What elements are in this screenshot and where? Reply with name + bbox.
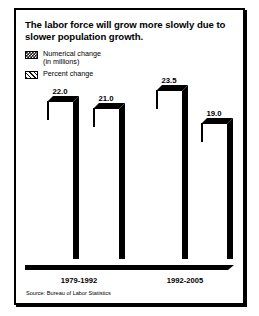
legend-label-percent-change: Percent change <box>43 70 93 78</box>
chart-inner: The labor force will grow more slowly du… <box>16 10 243 303</box>
bar-front-face <box>201 123 203 142</box>
axis-baseline-side <box>228 265 234 270</box>
bar-side-face <box>182 85 188 259</box>
bar-front-face <box>47 101 49 120</box>
legend-label-numerical-change: Numerical change (in millions) <box>43 50 101 66</box>
bar-1992-2005-numerical-change: 23.5 <box>156 91 182 265</box>
bar-side-face <box>227 118 233 259</box>
bar-value-label: 23.5 <box>161 76 176 85</box>
axis-baseline <box>25 265 228 270</box>
legend-item-numerical-change: Numerical change (in millions) <box>25 50 234 66</box>
bar-1992-2005-percent-change: 19.0 <box>201 124 227 265</box>
bar-value-label: 21.0 <box>98 94 113 103</box>
legend-item-percent-change: Percent change <box>25 70 234 79</box>
source-note: Source: Bureau of Labor Statistics <box>26 290 111 296</box>
bar-1979-1992-numerical-change: 22.0 <box>47 102 73 265</box>
bar-side-face <box>119 103 125 259</box>
bar-front-face <box>93 108 95 127</box>
chart-figure-frame: The labor force will grow more slowly du… <box>14 8 245 305</box>
bar-1979-1992-percent-change: 21.0 <box>93 109 119 265</box>
bar-value-label: 22.0 <box>52 87 67 96</box>
legend-swatch-checkerboard-icon <box>25 51 38 59</box>
x-axis-group-label-2: 1992-2005 <box>145 276 225 285</box>
chart-legend: Numerical change (in millions) Percent c… <box>25 50 234 78</box>
bar-front-face <box>156 90 158 109</box>
x-axis-group-label-1: 1979-1992 <box>39 276 119 285</box>
chart-plot-area: 22.0 21.0 23.5 19.0 <box>25 88 238 273</box>
bar-side-face <box>73 96 79 259</box>
bar-value-label: 19.0 <box>206 109 221 118</box>
chart-title: The labor force will grow more slowly du… <box>25 19 234 42</box>
legend-swatch-hatch-icon <box>25 71 38 79</box>
